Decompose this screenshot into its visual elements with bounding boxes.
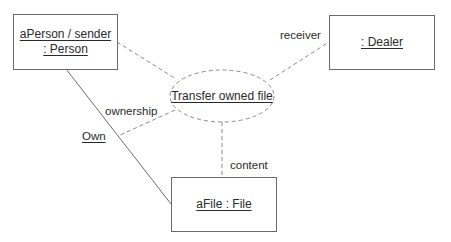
object-dealer: : Dealer	[329, 15, 435, 70]
object-person-class: : Person	[43, 42, 88, 57]
receiver-dashed-line	[270, 42, 329, 80]
sender-dashed-line	[117, 42, 176, 79]
object-person: aPerson / sender : Person	[13, 14, 118, 70]
object-person-name: aPerson / sender	[20, 27, 111, 42]
object-file: aFile : File	[171, 177, 277, 232]
role-label-content: content	[230, 158, 268, 172]
role-label-ownership: ownership	[105, 104, 157, 118]
association-label-own: Own	[82, 129, 106, 143]
collaboration-label: Transfer owned file	[171, 89, 273, 103]
object-file-name: aFile : File	[196, 197, 251, 212]
object-dealer-name: : Dealer	[361, 35, 403, 50]
role-label-receiver: receiver	[280, 28, 321, 42]
